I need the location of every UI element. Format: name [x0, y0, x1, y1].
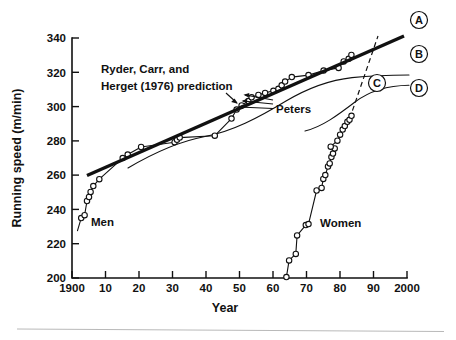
x-tick-label: 2000: [394, 282, 420, 294]
data-point: [330, 151, 335, 156]
data-point: [289, 74, 294, 79]
x-tick-label: 50: [233, 282, 246, 294]
x-tick-label: 60: [267, 282, 280, 294]
data-point: [212, 133, 217, 138]
prediction-note-line1: Ryder, Carr, and: [101, 63, 189, 75]
prediction-note-line2: Herget (1976) prediction: [101, 80, 233, 92]
badge-b-label: B: [415, 48, 423, 60]
y-tick-label: 320: [47, 67, 66, 79]
y-tick-label: 340: [47, 32, 66, 44]
data-point: [82, 213, 87, 218]
men-series-label: Men: [91, 216, 114, 228]
data-point: [335, 138, 340, 143]
badge-c-label: C: [373, 77, 381, 89]
data-point: [306, 221, 311, 226]
x-tick-label: 90: [367, 282, 380, 294]
badge-a: A: [411, 12, 428, 29]
figure-root: 340 320 300 280 260 240 220 200: [0, 0, 456, 340]
data-point: [282, 79, 287, 84]
data-point: [327, 161, 332, 166]
data-point: [284, 274, 289, 279]
data-point: [229, 116, 234, 121]
peters-label: Peters: [276, 103, 311, 115]
data-point: [97, 177, 102, 182]
data-point: [319, 185, 324, 190]
data-point: [323, 172, 328, 177]
x-tick-label: 40: [200, 282, 213, 294]
y-tick-label: 240: [47, 204, 66, 216]
running-speed-chart: 340 320 300 280 260 240 220 200: [0, 0, 456, 340]
data-point: [293, 251, 298, 256]
badge-a-label: A: [415, 14, 423, 26]
data-point: [337, 132, 342, 137]
y-tick-label: 260: [47, 169, 66, 181]
data-point: [286, 258, 291, 263]
data-point: [328, 144, 333, 149]
women-series-label: Women: [320, 217, 361, 229]
y-tick-label: 300: [47, 101, 66, 113]
badge-d-label: D: [415, 82, 423, 94]
data-point: [91, 183, 96, 188]
data-point: [138, 144, 143, 149]
badge-b: B: [411, 46, 428, 63]
x-tick-label: 70: [300, 282, 313, 294]
y-tick-label: 280: [47, 135, 66, 147]
y-tick-label: 220: [47, 238, 66, 250]
data-point: [294, 233, 299, 238]
badge-d: D: [411, 80, 428, 97]
x-axis-title: Year: [212, 301, 239, 315]
x-tick-label: 20: [133, 282, 146, 294]
x-tick-label: 10: [99, 282, 112, 294]
x-tick-label: 30: [166, 282, 179, 294]
data-point: [349, 113, 354, 118]
badge-c: C: [369, 75, 386, 92]
data-point: [88, 189, 93, 194]
x-tick-label: 1900: [59, 282, 85, 294]
y-axis-title: Running speed (m/min): [10, 89, 24, 228]
x-tick-label: 80: [334, 282, 347, 294]
